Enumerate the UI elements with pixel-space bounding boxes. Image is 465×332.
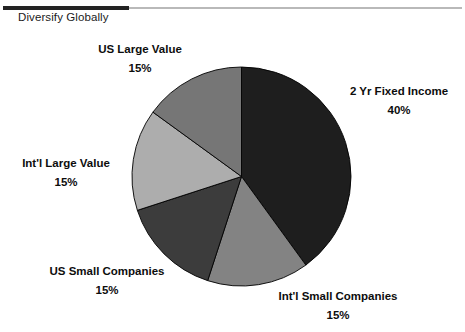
callout-label: US Small Companies [49,265,164,277]
callout-label: 2 Yr Fixed Income [350,85,448,97]
title-rule-light [129,7,462,9]
callout-us-large-value: US Large Value 15% [70,44,210,74]
callout-label: US Large Value [98,43,182,55]
pie-chart [131,66,352,287]
slide-canvas: Diversify Globally US Large Value 15% 2 … [0,0,465,332]
callout-label: Int'l Small Companies [278,290,397,302]
callout-percent: 15% [31,285,183,297]
pie-slice-group [132,67,351,286]
slide-title: Diversify Globally [18,11,109,23]
callout-intl-large-value: Int'l Large Value 15% [4,158,128,188]
callout-percent: 15% [256,310,420,322]
callout-label: Int'l Large Value [22,157,110,169]
callout-intl-small-companies: Int'l Small Companies 15% [256,291,420,321]
title-rule-dark [3,6,129,10]
callout-fixed-income: 2 Yr Fixed Income 40% [340,86,458,116]
pie-chart-svg [131,66,352,287]
callout-us-small-companies: US Small Companies 15% [31,266,183,296]
callout-percent: 40% [340,105,458,117]
callout-percent: 15% [70,63,210,75]
callout-percent: 15% [4,177,128,189]
